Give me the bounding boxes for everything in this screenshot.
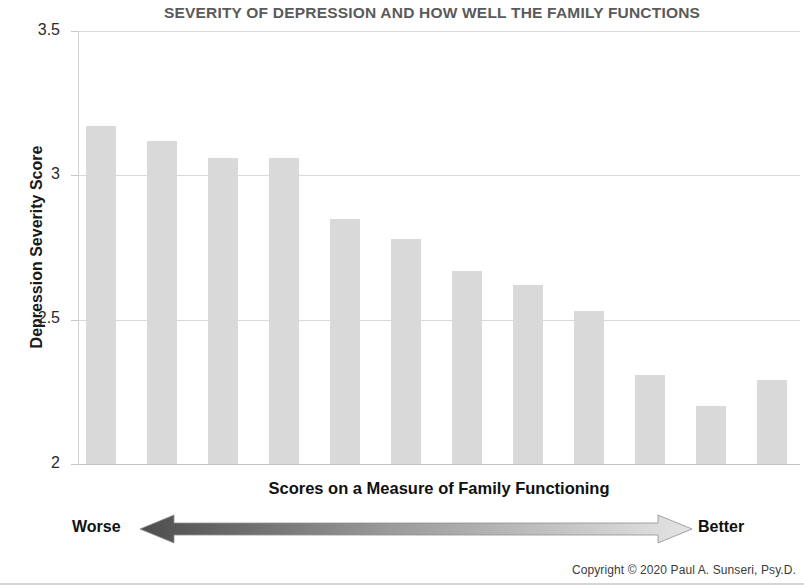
y-tick-label-2: 2: [16, 454, 60, 472]
scale-label-better: Better: [698, 518, 744, 536]
scale-label-worse: Worse: [72, 518, 121, 536]
x-axis-title: Scores on a Measure of Family Functionin…: [78, 479, 800, 498]
bar-3: [208, 158, 238, 464]
bar-2: [147, 141, 177, 464]
y-tick-mark-3: [71, 175, 78, 176]
bar-4: [269, 158, 299, 464]
y-tick-label-3-5: 3.5: [16, 21, 60, 39]
bar-1: [86, 126, 116, 464]
gridline-baseline-2: [78, 464, 800, 465]
bar-12: [757, 380, 787, 464]
double-arrow-icon: [140, 512, 692, 546]
gridline-2-5: [78, 320, 800, 321]
y-axis-title: Depression Severity Score: [28, 117, 46, 377]
bar-6: [391, 239, 421, 464]
chart-figure: SEVERITY OF DEPRESSION AND HOW WELL THE …: [0, 0, 804, 585]
plot-area: [78, 31, 800, 464]
y-tick-label-3: 3: [16, 165, 60, 183]
y-tick-mark-2-5: [71, 320, 78, 321]
bar-10: [635, 375, 665, 464]
bar-9: [574, 311, 604, 464]
copyright-notice: Copyright © 2020 Paul A. Sunseri, Psy.D.: [572, 563, 796, 577]
y-tick-label-2-5: 2.5: [16, 309, 60, 327]
gridline-3: [78, 175, 800, 176]
bar-11: [696, 406, 726, 464]
y-tick-mark-2: [71, 464, 78, 465]
bar-8: [513, 285, 543, 464]
chart-title: SEVERITY OF DEPRESSION AND HOW WELL THE …: [60, 4, 804, 22]
scale-direction-row: Worse Better: [0, 512, 804, 548]
bar-5: [330, 219, 360, 464]
gridline-3-5: [78, 31, 800, 32]
y-tick-mark-3-5: [71, 31, 78, 32]
bar-7: [452, 271, 482, 464]
